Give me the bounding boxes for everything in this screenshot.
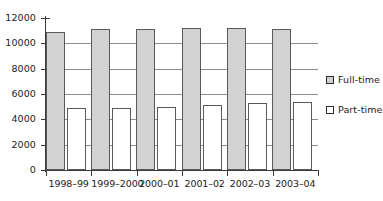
plot-area bbox=[46, 18, 318, 170]
bar-part-time bbox=[293, 102, 312, 170]
bar-part-time bbox=[112, 108, 131, 170]
legend-item-full-time[interactable]: Full-time bbox=[326, 74, 380, 85]
bar-full-time bbox=[272, 29, 291, 170]
x-axis-tick-label: 2002–03 bbox=[227, 178, 272, 189]
bar-part-time bbox=[203, 105, 222, 170]
legend-item-part-time[interactable]: Part-time bbox=[326, 104, 383, 115]
x-axis-tick-label: 2003–04 bbox=[273, 178, 318, 189]
x-axis-tick-label: 1998–99 bbox=[46, 178, 91, 189]
x-axis-tick-label: 2000–01 bbox=[137, 178, 182, 189]
x-axis-tick bbox=[273, 170, 274, 176]
y-axis-tick-label: 4000 bbox=[11, 113, 36, 124]
x-axis-tick bbox=[46, 170, 47, 176]
x-axis-tick-label: 1999–2000 bbox=[91, 178, 136, 189]
bar-full-time bbox=[46, 32, 65, 170]
bar-part-time bbox=[248, 103, 267, 170]
legend-label-part-time: Part-time bbox=[338, 104, 383, 115]
bar-full-time bbox=[91, 29, 110, 170]
legend-label-full-time: Full-time bbox=[338, 74, 380, 85]
bar-full-time bbox=[136, 29, 155, 170]
y-axis-tick-label: 6000 bbox=[11, 88, 36, 99]
bar-full-time bbox=[182, 28, 201, 170]
y-axis-tick-label: 12000 bbox=[5, 12, 36, 23]
y-axis-tick-label: 8000 bbox=[11, 63, 36, 74]
filled-square-icon bbox=[326, 76, 334, 84]
x-axis-tick bbox=[182, 170, 183, 176]
y-axis-tick-label: 10000 bbox=[5, 37, 36, 48]
hollow-square-icon bbox=[326, 106, 334, 114]
x-axis-tick bbox=[227, 170, 228, 176]
y-axis-tick-label: 2000 bbox=[11, 139, 36, 150]
x-axis-tick bbox=[318, 170, 319, 176]
bar-full-time bbox=[227, 28, 246, 170]
bar-part-time bbox=[157, 107, 176, 170]
x-axis-tick-label: 2001–02 bbox=[182, 178, 227, 189]
bar-part-time bbox=[67, 108, 86, 170]
bar-chart: 020004000600080001000012000 1998–991999–… bbox=[0, 0, 383, 201]
y-axis-tick-label: 0 bbox=[30, 164, 36, 175]
x-axis-tick bbox=[137, 170, 138, 176]
x-axis-tick bbox=[91, 170, 92, 176]
